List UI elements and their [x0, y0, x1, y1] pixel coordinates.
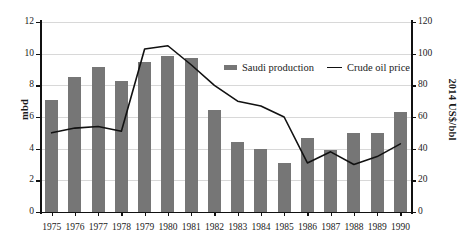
x-axis-tick [168, 212, 169, 216]
legend-label-saudi-production: Saudi production [242, 62, 314, 73]
y-axis-right-tick-label: 120 [418, 17, 444, 27]
y-axis-right-tick [412, 22, 416, 23]
x-axis-tick [191, 212, 192, 216]
y-axis-right-tick [412, 54, 416, 55]
line-swatch-icon [327, 67, 342, 69]
plot-area [40, 22, 412, 212]
y-axis-right-tick-label: 80 [418, 80, 444, 90]
y-axis-left-tick-label: 2 [0, 175, 34, 185]
y-axis-right-title: 2014 US$/bbl [447, 58, 458, 162]
y-axis-right-tick [412, 149, 416, 150]
x-axis-line [38, 212, 414, 213]
x-axis-tick [238, 212, 239, 216]
y-axis-left-tick-label: 4 [0, 144, 34, 154]
x-axis-tick [307, 212, 308, 216]
y-axis-right-tick [412, 212, 416, 213]
x-axis-tick [121, 212, 122, 216]
x-axis-tick [261, 212, 262, 216]
x-axis-tick [377, 212, 378, 216]
legend-label-crude-oil-price: Crude oil price [347, 62, 410, 73]
y-axis-right-tick-label: 100 [418, 49, 444, 59]
y-axis-left-tick-label: 0 [0, 207, 34, 217]
x-axis-tick [331, 212, 332, 216]
x-axis-tick [214, 212, 215, 216]
x-axis-tick [52, 212, 53, 216]
bar-swatch-icon [224, 65, 237, 70]
y-axis-right-tick-label: 0 [418, 207, 444, 217]
x-axis-tick [98, 212, 99, 216]
legend-item-crude-oil-price: Crude oil price [327, 62, 410, 73]
x-axis-tick [400, 212, 401, 216]
x-axis-tick [145, 212, 146, 216]
x-axis-tick [75, 212, 76, 216]
y-axis-left-tick [36, 212, 40, 213]
legend-item-saudi-production: Saudi production [224, 62, 314, 73]
y-axis-right-tick [412, 85, 416, 86]
chart-legend: Saudi production Crude oil price [224, 62, 410, 73]
y-axis-right-tick-label: 40 [418, 144, 444, 154]
line-series-crude-oil-price [40, 22, 412, 212]
y-axis-left-title: mbd [19, 80, 30, 140]
y-axis-left-tick-label: 10 [0, 49, 34, 59]
y-axis-right-tick-label: 60 [418, 112, 444, 122]
y-axis-right-tick [412, 117, 416, 118]
x-axis-tick [354, 212, 355, 216]
x-axis-tick-label: 1990 [380, 222, 420, 232]
y-axis-left-tick-label: 12 [0, 17, 34, 27]
y-axis-right-tick-label: 20 [418, 175, 444, 185]
y-axis-right-tick [412, 180, 416, 181]
x-axis-tick [284, 212, 285, 216]
